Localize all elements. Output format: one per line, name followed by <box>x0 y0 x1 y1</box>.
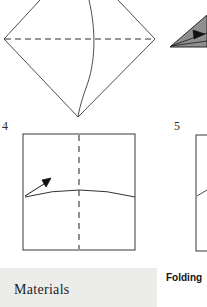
diamond-figure <box>4 0 155 117</box>
folding-heading: Folding <box>166 273 202 283</box>
step-5-square-figure <box>196 135 207 251</box>
step-5-diagonal-line <box>197 190 207 196</box>
diamond-edge-lower-right <box>78 39 155 117</box>
materials-heading: Materials <box>14 283 70 297</box>
step-4-square-figure <box>23 134 135 250</box>
diamond-edge-upper-left <box>4 0 40 39</box>
step-5-square-outline <box>196 135 207 251</box>
figure-illustrations <box>0 0 207 307</box>
step-4-square-outline <box>23 134 135 250</box>
step-4-number-label: 4 <box>2 120 8 132</box>
diamond-curved-fold-line <box>78 0 94 117</box>
diamond-edge-upper-right <box>118 0 155 39</box>
shaded-triangle-shape <box>170 15 207 47</box>
step-4-arrow-shaft <box>25 182 47 196</box>
diamond-edge-lower-left <box>4 39 78 117</box>
step-4-fold-arc <box>25 190 135 197</box>
figure-page: 4 5 Materials Folding <box>0 0 207 307</box>
shaded-triangle-figure <box>170 15 207 47</box>
step-5-number-label: 5 <box>174 120 180 132</box>
step-4-arrow-head-icon <box>42 178 51 187</box>
shaded-triangle-fold-line-1 <box>171 33 207 46</box>
shaded-triangle-arrow-icon <box>193 30 205 39</box>
shaded-triangle-fold-line-2 <box>171 41 207 46</box>
